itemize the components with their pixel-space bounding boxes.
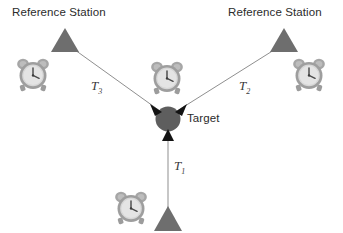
- clock-icon-left-station: [17, 59, 49, 92]
- measurement-label-t2: T2: [239, 78, 250, 96]
- reference-station-right-label: Reference Station: [228, 6, 322, 18]
- reference-station-left-triangle: [51, 28, 79, 52]
- reference-station-left-label: Reference Station: [12, 6, 106, 18]
- diagram-graphics: [0, 0, 343, 233]
- clock-icon-bottom-station: [115, 192, 147, 225]
- clock-icon-target: [151, 62, 183, 95]
- arrowhead-t1: [162, 129, 174, 141]
- t1-subscript: 1: [181, 167, 185, 176]
- measurement-label-t1: T1: [174, 158, 185, 176]
- t2-subscript: 2: [246, 87, 250, 96]
- signal-line-t2: [177, 50, 274, 111]
- clock-icon-right-station: [293, 59, 325, 92]
- diagram-canvas: Reference Station Reference Station Targ…: [0, 0, 343, 233]
- reference-station-bottom-triangle: [154, 206, 182, 231]
- target-label: Target: [187, 112, 220, 124]
- t3-subscript: 3: [98, 87, 102, 96]
- signal-line-t3: [75, 50, 160, 111]
- measurement-label-t3: T3: [91, 78, 102, 96]
- reference-station-right-triangle: [270, 28, 298, 52]
